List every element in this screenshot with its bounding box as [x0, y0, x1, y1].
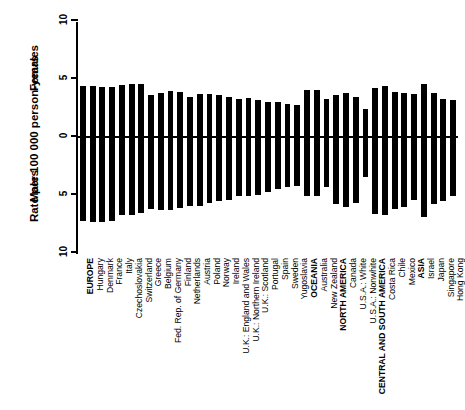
- bar-males[interactable]: [275, 136, 281, 189]
- bar-males[interactable]: [246, 136, 252, 196]
- bar-females[interactable]: [236, 99, 242, 136]
- bar-females[interactable]: [285, 104, 291, 136]
- bar-males[interactable]: [421, 136, 427, 217]
- bar-females[interactable]: [421, 84, 427, 136]
- bar-females[interactable]: [90, 86, 96, 136]
- bar-males[interactable]: [168, 136, 174, 210]
- bar-group[interactable]: [197, 22, 203, 254]
- bar-males[interactable]: [382, 136, 388, 215]
- bar-females[interactable]: [197, 94, 203, 136]
- bar-group[interactable]: [246, 22, 252, 254]
- bar-females[interactable]: [129, 84, 135, 136]
- bar-females[interactable]: [119, 85, 125, 136]
- bar-group[interactable]: [431, 22, 437, 254]
- bar-females[interactable]: [168, 91, 174, 136]
- bar-females[interactable]: [333, 95, 339, 136]
- bar-males[interactable]: [207, 136, 213, 203]
- bar-males[interactable]: [265, 136, 271, 192]
- bar-group[interactable]: [109, 22, 115, 254]
- bar-males[interactable]: [138, 136, 144, 213]
- bar-group[interactable]: [158, 22, 164, 254]
- bar-group[interactable]: [138, 22, 144, 254]
- bar-males[interactable]: [129, 136, 135, 215]
- bar-males[interactable]: [148, 136, 154, 209]
- bar-males[interactable]: [304, 136, 310, 196]
- bar-group[interactable]: [236, 22, 242, 254]
- bar-females[interactable]: [382, 86, 388, 136]
- bar-group[interactable]: [421, 22, 427, 254]
- bar-females[interactable]: [304, 90, 310, 136]
- bar-group[interactable]: [304, 22, 310, 254]
- bar-females[interactable]: [207, 94, 213, 136]
- bar-group[interactable]: [285, 22, 291, 254]
- bar-females[interactable]: [324, 99, 330, 136]
- bar-group[interactable]: [99, 22, 105, 254]
- bar-males[interactable]: [236, 136, 242, 196]
- bar-group[interactable]: [411, 22, 417, 254]
- bar-group[interactable]: [314, 22, 320, 254]
- bar-group[interactable]: [275, 22, 281, 254]
- bar-males[interactable]: [216, 136, 222, 201]
- bar-males[interactable]: [333, 136, 339, 204]
- bar-males[interactable]: [197, 136, 203, 206]
- bar-males[interactable]: [294, 136, 300, 186]
- bar-females[interactable]: [363, 109, 369, 136]
- bar-females[interactable]: [275, 102, 281, 136]
- bar-females[interactable]: [450, 100, 456, 136]
- bar-males[interactable]: [363, 136, 369, 177]
- bar-males[interactable]: [343, 136, 349, 207]
- bar-group[interactable]: [382, 22, 388, 254]
- bar-females[interactable]: [187, 97, 193, 136]
- bar-females[interactable]: [265, 102, 271, 136]
- bar-males[interactable]: [90, 136, 96, 222]
- bar-females[interactable]: [158, 93, 164, 136]
- bar-females[interactable]: [226, 97, 232, 136]
- bar-group[interactable]: [372, 22, 378, 254]
- bar-group[interactable]: [363, 22, 369, 254]
- bar-females[interactable]: [255, 100, 261, 136]
- bar-females[interactable]: [401, 93, 407, 136]
- bar-group[interactable]: [226, 22, 232, 254]
- bar-group[interactable]: [255, 22, 261, 254]
- bar-males[interactable]: [285, 136, 291, 187]
- bar-group[interactable]: [90, 22, 96, 254]
- bar-group[interactable]: [333, 22, 339, 254]
- bar-males[interactable]: [314, 136, 320, 196]
- bar-group[interactable]: [324, 22, 330, 254]
- bar-males[interactable]: [109, 136, 115, 221]
- bar-females[interactable]: [246, 98, 252, 136]
- bar-males[interactable]: [392, 136, 398, 209]
- bar-males[interactable]: [440, 136, 446, 201]
- bar-group[interactable]: [168, 22, 174, 254]
- bar-group[interactable]: [187, 22, 193, 254]
- bar-males[interactable]: [372, 136, 378, 214]
- bar-group[interactable]: [294, 22, 300, 254]
- bar-males[interactable]: [119, 136, 125, 215]
- bar-males[interactable]: [226, 136, 232, 200]
- bar-group[interactable]: [401, 22, 407, 254]
- bar-group[interactable]: [392, 22, 398, 254]
- bar-group[interactable]: [148, 22, 154, 254]
- bar-group[interactable]: [207, 22, 213, 254]
- bar-males[interactable]: [177, 136, 183, 208]
- bar-group[interactable]: [265, 22, 271, 254]
- bar-females[interactable]: [372, 88, 378, 136]
- bar-females[interactable]: [294, 105, 300, 136]
- bar-males[interactable]: [158, 136, 164, 210]
- bar-males[interactable]: [187, 136, 193, 206]
- bar-males[interactable]: [401, 136, 407, 207]
- bar-males[interactable]: [99, 136, 105, 222]
- bar-females[interactable]: [138, 84, 144, 136]
- bar-females[interactable]: [80, 86, 86, 136]
- bar-group[interactable]: [440, 22, 446, 254]
- bar-group[interactable]: [80, 22, 86, 254]
- bar-females[interactable]: [392, 92, 398, 136]
- bar-females[interactable]: [440, 99, 446, 136]
- bar-females[interactable]: [216, 95, 222, 136]
- bar-males[interactable]: [324, 136, 330, 187]
- bar-females[interactable]: [411, 94, 417, 136]
- bar-males[interactable]: [431, 136, 437, 204]
- bar-females[interactable]: [148, 95, 154, 136]
- bar-males[interactable]: [411, 136, 417, 200]
- bar-group[interactable]: [177, 22, 183, 254]
